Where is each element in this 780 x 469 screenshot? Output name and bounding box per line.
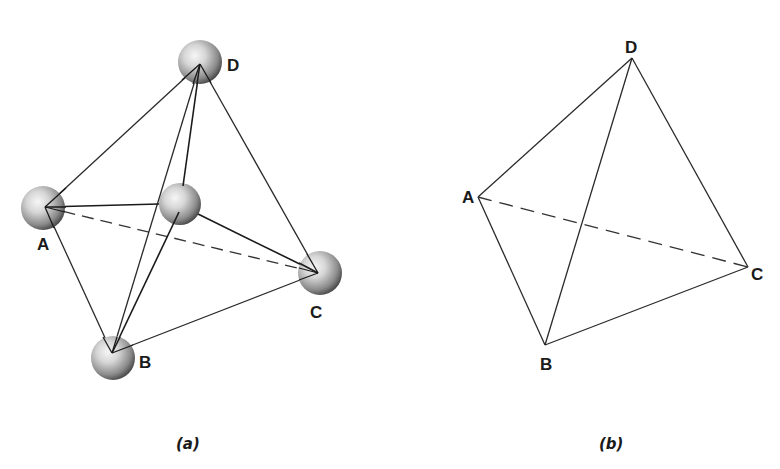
- edge-b-CD: [632, 58, 748, 267]
- caption-a: (a): [176, 435, 200, 453]
- label-a-D: D: [227, 56, 239, 75]
- atom-B: [91, 336, 135, 380]
- edge-a-BC: [112, 273, 318, 353]
- edge-b-AC-dashed: [478, 197, 748, 267]
- caption-b: (b): [599, 435, 623, 453]
- atom-A: [21, 186, 66, 230]
- bond-center-B: [112, 212, 179, 353]
- panel-b-wireframe-tetrahedron: D A C B (b): [462, 38, 763, 453]
- edge-a-CD: [200, 64, 318, 273]
- edge-b-BD: [545, 58, 632, 345]
- label-b-B: B: [540, 355, 552, 374]
- edge-b-AB: [478, 197, 545, 345]
- center-atom: [159, 183, 201, 225]
- atom-D: [178, 40, 222, 84]
- label-a-C: C: [310, 303, 322, 322]
- label-b-D: D: [625, 38, 637, 57]
- label-a-B: B: [139, 353, 151, 372]
- edge-a-AB: [45, 207, 112, 353]
- label-a-A: A: [37, 235, 49, 254]
- label-b-A: A: [462, 188, 474, 207]
- label-b-C: C: [751, 265, 763, 284]
- atom-C: [298, 251, 342, 295]
- panel-a-ball-and-stick-tetrahedron: D A C B (a): [21, 40, 342, 453]
- tetrahedron-figure: D A C B (a) D A C B (b): [0, 0, 780, 469]
- edge-b-BC: [545, 267, 748, 345]
- edge-b-AD: [478, 58, 632, 197]
